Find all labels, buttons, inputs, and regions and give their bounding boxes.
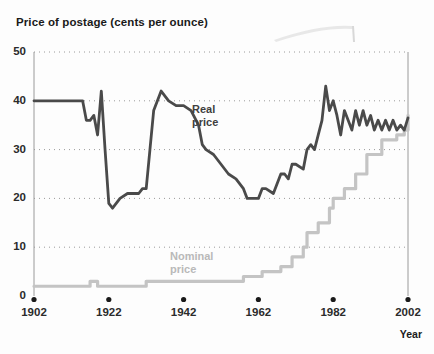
x-tick-dot-1902: [31, 297, 36, 302]
chart-plot-area: [0, 0, 434, 354]
x-tick-label-1942: 1942: [159, 306, 209, 318]
real-price-annotation: Real price: [192, 103, 218, 129]
axis-frame: [34, 52, 408, 296]
real-price-annotation-line1: Real: [192, 103, 218, 116]
x-tick-dot-1982: [331, 297, 336, 302]
x-tick-marks: [31, 297, 410, 302]
x-tick-label-1922: 1922: [84, 306, 134, 318]
y-tick-label-0: 0: [4, 289, 26, 301]
real-price-annotation-line2: price: [192, 116, 218, 129]
x-tick-dot-2002: [405, 297, 410, 302]
x-tick-label-1902: 1902: [9, 306, 59, 318]
x-tick-dot-1962: [256, 297, 261, 302]
nominal-price-line: [34, 115, 408, 286]
gridlines: [34, 52, 408, 296]
chart-figure: Price of postage (cents per ounce) 01020…: [0, 0, 434, 354]
y-tick-label-30: 30: [4, 143, 26, 155]
nominal-price-annotation-line2: price: [170, 263, 213, 276]
x-tick-label-1982: 1982: [308, 306, 358, 318]
nominal-price-annotation-line1: Nominal: [170, 250, 213, 263]
y-tick-label-20: 20: [4, 191, 26, 203]
x-axis-title: Year: [400, 328, 422, 340]
y-tick-label-10: 10: [4, 240, 26, 252]
y-tick-label-40: 40: [4, 94, 26, 106]
x-tick-dot-1942: [181, 297, 186, 302]
decorative-arc: [274, 26, 355, 42]
nominal-price-annotation: Nominal price: [170, 250, 213, 276]
y-tick-label-50: 50: [4, 45, 26, 57]
x-tick-label-1962: 1962: [233, 306, 283, 318]
x-tick-label-2002: 2002: [383, 306, 433, 318]
x-tick-dot-1922: [106, 297, 111, 302]
